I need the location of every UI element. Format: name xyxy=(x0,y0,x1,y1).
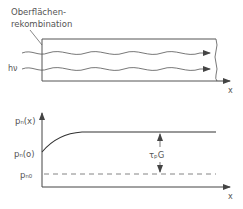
diagram-canvas: x hν Oberflächen- rekombination x τₚG pₙ… xyxy=(0,0,243,209)
pn-zero-label: pₙ(o) xyxy=(14,149,35,159)
pn-curve xyxy=(42,132,216,152)
annotation-surface-recombination-line2: rekombination xyxy=(11,19,72,29)
tau-g-label: τₚG xyxy=(149,150,164,160)
annotation-leader-line xyxy=(30,30,42,45)
x-label-bottom: x xyxy=(228,192,233,201)
semiconductor-slab xyxy=(42,39,217,81)
light-wave-lower xyxy=(22,68,210,71)
x-label-top: x xyxy=(228,86,233,95)
pn0-label: pₙ₀ xyxy=(20,170,33,180)
light-wave-upper xyxy=(22,52,210,55)
photon-energy-label: hν xyxy=(8,64,18,73)
y-axis-label: pₙ(x) xyxy=(15,116,35,126)
annotation-surface-recombination-line1: Oberflächen- xyxy=(11,7,66,17)
